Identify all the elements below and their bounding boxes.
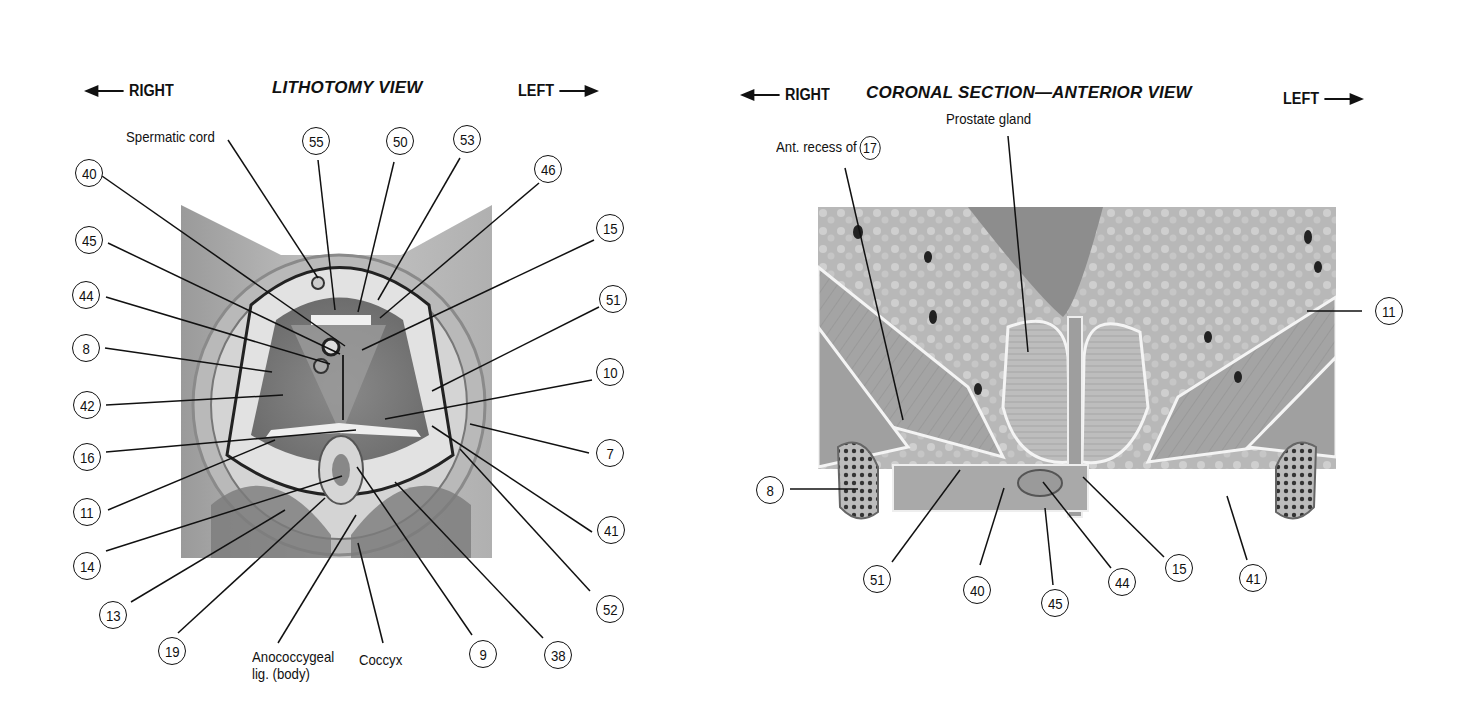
right-direction-right: RIGHT bbox=[740, 86, 830, 104]
label-ant-recess: Ant. recess of17 bbox=[776, 136, 880, 160]
callout-55: 55 bbox=[302, 127, 330, 155]
callout-13: 13 bbox=[99, 601, 127, 629]
callout-38: 38 bbox=[544, 641, 572, 669]
callout-41-coronal: 41 bbox=[1239, 564, 1267, 592]
arrow-left-icon bbox=[740, 89, 780, 101]
callout-41: 41 bbox=[597, 516, 625, 544]
callout-42: 42 bbox=[73, 391, 101, 419]
arrow-right-icon bbox=[1324, 93, 1364, 105]
callout-44: 44 bbox=[72, 281, 100, 309]
callout-9: 9 bbox=[469, 640, 497, 668]
callout-17: 17 bbox=[859, 136, 880, 160]
callout-8: 8 bbox=[72, 334, 100, 362]
callout-40: 40 bbox=[75, 159, 103, 187]
callout-45-coronal: 45 bbox=[1041, 589, 1069, 617]
callout-7: 7 bbox=[596, 439, 624, 467]
left-direction-right: RIGHT bbox=[84, 82, 174, 100]
arrow-right-icon bbox=[559, 85, 599, 97]
coronal-section-illustration bbox=[818, 207, 1336, 525]
callout-51: 51 bbox=[599, 285, 627, 313]
right-direction-left: LEFT bbox=[1283, 90, 1364, 108]
callout-8-coronal: 8 bbox=[756, 476, 784, 504]
callout-53: 53 bbox=[453, 125, 481, 153]
label-prostate-gland: Prostate gland bbox=[946, 110, 1031, 127]
label-spermatic-cord: Spermatic cord bbox=[126, 128, 215, 145]
right-figure-title: CORONAL SECTION—ANTERIOR VIEW bbox=[866, 83, 1192, 103]
callout-11-coronal: 11 bbox=[1375, 297, 1403, 325]
left-direction-left: LEFT bbox=[518, 82, 599, 100]
label-coccyx: Coccyx bbox=[359, 651, 402, 668]
arrow-left-icon bbox=[84, 85, 124, 97]
callout-50: 50 bbox=[386, 127, 414, 155]
callout-19: 19 bbox=[158, 637, 186, 665]
callout-46: 46 bbox=[534, 155, 562, 183]
callout-45: 45 bbox=[75, 226, 103, 254]
callout-16: 16 bbox=[73, 443, 101, 471]
callout-15-coronal: 15 bbox=[1165, 554, 1193, 582]
callout-14: 14 bbox=[73, 552, 101, 580]
callout-10: 10 bbox=[596, 358, 624, 386]
callout-52: 52 bbox=[596, 595, 624, 623]
callout-11: 11 bbox=[73, 498, 101, 526]
lithotomy-illustration bbox=[181, 205, 492, 558]
callout-51-coronal: 51 bbox=[863, 565, 891, 593]
label-anococcygeal: Anococcygeal lig. (body) bbox=[252, 648, 334, 682]
left-figure-title: LITHOTOMY VIEW bbox=[272, 78, 422, 98]
callout-40-coronal: 40 bbox=[963, 576, 991, 604]
callout-15: 15 bbox=[596, 214, 624, 242]
callout-44-coronal: 44 bbox=[1108, 568, 1136, 596]
